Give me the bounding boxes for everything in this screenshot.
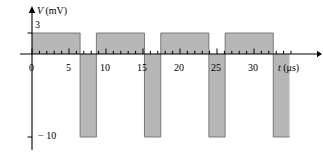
waveform-segment [80,54,96,137]
x-tick-label: 10 [100,63,110,73]
x-axis-var: t [278,62,281,73]
x-tick-label: 20 [174,63,184,73]
waveform-figure: V (mV) 3 − 10 t (μs) 051015202530 [0,0,323,156]
y-axis-var: V [37,5,43,16]
x-tick-label: 25 [211,63,221,73]
y-axis-unit: (mV) [45,5,67,16]
x-tick-label: 5 [66,63,71,73]
y-axis-label: V (mV) [37,6,67,16]
x-axis-unit: (μs) [283,62,299,73]
y-tick-label-low: − 10 [38,131,56,141]
x-axis-label: t (μs) [278,63,299,73]
waveform-trace [32,33,290,137]
x-tick-label: 30 [248,63,258,73]
y-tick-label-high: 3 [35,20,40,30]
x-tick-label: 15 [137,63,147,73]
waveform-segment [161,33,209,54]
waveform-segment [225,33,273,54]
x-tick-label: 0 [29,63,34,73]
x-axis-arrow [317,51,322,57]
y-axis-arrow [29,6,35,13]
